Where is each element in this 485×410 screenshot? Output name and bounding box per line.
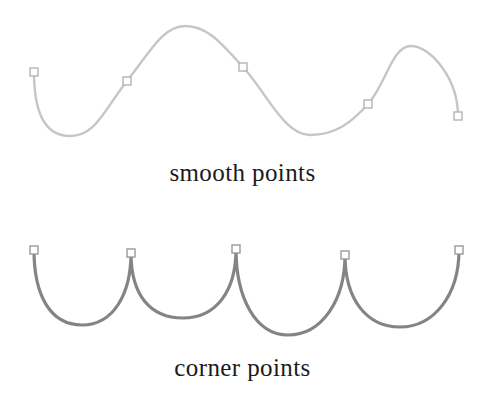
anchor-point-square[interactable] bbox=[455, 246, 463, 254]
anchor-point-square[interactable] bbox=[30, 68, 38, 76]
anchor-point-square[interactable] bbox=[239, 63, 247, 71]
anchor-point-square[interactable] bbox=[341, 251, 349, 259]
smooth-curve-svg bbox=[0, 0, 485, 160]
anchor-point-square[interactable] bbox=[232, 245, 240, 253]
anchor-point-square[interactable] bbox=[364, 100, 372, 108]
smooth-points-caption: smooth points bbox=[0, 158, 485, 188]
corner-anchor-group bbox=[30, 245, 463, 259]
corner-curve-stage bbox=[0, 205, 485, 365]
smooth-points-panel: smooth points bbox=[0, 0, 485, 205]
corner-bezier-path bbox=[34, 249, 459, 335]
anchor-point-square[interactable] bbox=[454, 112, 462, 120]
anchor-point-square[interactable] bbox=[127, 249, 135, 257]
corner-curve-svg bbox=[0, 205, 485, 365]
anchor-point-square[interactable] bbox=[123, 77, 131, 85]
corner-points-caption: corner points bbox=[0, 353, 485, 383]
anchor-point-square[interactable] bbox=[30, 246, 38, 254]
smooth-curve-stage bbox=[0, 0, 485, 160]
path-anchor-diagram: smooth points corner points bbox=[0, 0, 485, 410]
smooth-bezier-path bbox=[34, 26, 458, 136]
smooth-anchor-group bbox=[30, 63, 462, 120]
corner-points-panel: corner points bbox=[0, 205, 485, 410]
